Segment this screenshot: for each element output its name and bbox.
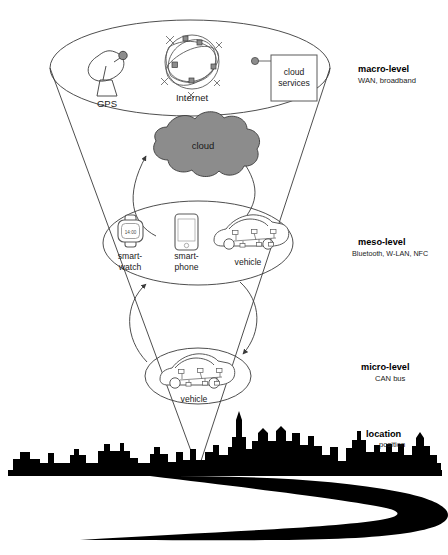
smartphone-node[interactable]: smart- phone <box>174 214 198 272</box>
vehicle-micro-label: vehicle <box>181 394 208 404</box>
macro-level-title: macro-level <box>358 64 409 74</box>
meso-level-title: meso-level <box>358 237 406 247</box>
cloud-services-node[interactable]: cloud services <box>251 55 317 101</box>
connector-meso-to-micro <box>240 282 257 354</box>
connector-micro-to-meso <box>130 284 147 362</box>
vehicle-meso-node[interactable]: vehicle <box>214 215 289 267</box>
macro-level-tech: WAN, broadband <box>358 76 416 85</box>
location-title: location <box>366 429 402 439</box>
cloud-services-label-line2: services <box>278 78 310 88</box>
internet-node[interactable]: Internet <box>161 35 222 103</box>
hierarchy-diagram: GPS Internet <box>0 0 448 555</box>
satellite-dish-icon <box>88 51 127 96</box>
micro-level-tech: CAN bus <box>375 374 406 383</box>
road-silhouette <box>80 476 448 540</box>
smartphone-icon <box>175 214 198 250</box>
level-labels: macro-level WAN, broadband meso-level Bl… <box>352 64 428 449</box>
smartwatch-label-line1: smart- <box>118 251 142 261</box>
location-tech: position <box>379 440 405 449</box>
cloud-label: cloud <box>192 140 215 151</box>
vehicle-meso-label: vehicle <box>235 257 262 267</box>
meso-level-tech: Bluetooth, W-LAN, NFC <box>352 249 428 258</box>
smartphone-label-line1: smart- <box>174 251 198 261</box>
smartwatch-time: 14:00 <box>125 230 137 235</box>
cloud-node[interactable]: cloud <box>154 112 260 177</box>
smartphone-label-line2: phone <box>175 262 199 272</box>
micro-level-title: micro-level <box>361 362 410 372</box>
city-skyline <box>8 411 442 476</box>
cloud-services-label-line1: cloud <box>284 67 305 77</box>
car-network-icon <box>160 354 235 388</box>
smartwatch-node[interactable]: 14:00 smart- watch <box>118 215 143 272</box>
network-globe-icon <box>161 35 222 98</box>
gps-label: GPS <box>97 98 117 109</box>
figure-canvas: GPS Internet <box>0 0 448 555</box>
smartwatch-label-line2: watch <box>118 262 142 272</box>
internet-label: Internet <box>176 92 209 103</box>
gps-node[interactable]: GPS <box>88 51 127 109</box>
